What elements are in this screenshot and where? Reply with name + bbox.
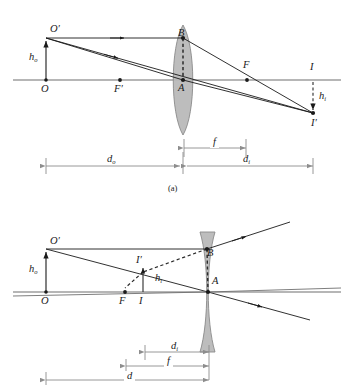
label-object-tip-b: O′: [50, 236, 60, 247]
label-dim-image-distance-b: di: [171, 341, 178, 352]
label-dim-object-distance-a: do: [107, 154, 116, 165]
label-lens-top-a: B: [178, 28, 184, 39]
ray-exit-lower-a: [183, 80, 313, 113]
focal-point-near-marker-a: [118, 78, 122, 82]
label-object-base-b: O: [41, 296, 49, 307]
ray-via-near-focus-a: [46, 38, 183, 80]
ray-center-arrow-b: [248, 303, 262, 307]
virtual-ray-dashed-b: [143, 249, 207, 272]
lens-center-marker-b: [206, 290, 210, 294]
label-lens-center-a: A: [178, 83, 184, 94]
label-dim-focal-length-b: f: [164, 356, 173, 367]
ray-diverged-upper-arrow-b: [232, 237, 246, 242]
label-focal-near-a: F′: [114, 84, 123, 95]
label-image-tip-b: I′: [136, 255, 142, 266]
label-focal-far-a: F: [243, 60, 249, 71]
label-dim-image-distance-a: di: [243, 154, 250, 165]
label-image-height-a: hi: [319, 91, 326, 102]
ray-diverged-upper-b: [207, 222, 290, 249]
focal-point-far-marker-a: [245, 78, 249, 82]
panel-b: [13, 222, 341, 385]
label-dim-focal-length-a: f: [210, 137, 219, 148]
label-focal-b: F: [119, 296, 125, 307]
label-object-base-a: O: [41, 84, 49, 95]
label-image-height-b: hi: [155, 273, 162, 284]
ray-through-center-b: [46, 249, 208, 292]
label-object-tip-a: O′: [50, 24, 60, 35]
optics-figure: O′ ho O F′ F B A I hi I′ do f di (a) O′ …: [0, 0, 349, 385]
label-lens-center-b: A: [212, 276, 218, 287]
focal-point-marker-b: [123, 290, 127, 294]
image-tip-marker-a: [311, 111, 315, 115]
panel-a: [13, 25, 341, 174]
label-lens-top-b: B: [207, 248, 213, 259]
ray-through-focus-a: [183, 38, 313, 113]
object-base-marker-a: [44, 78, 48, 82]
axis-continuation-b: [208, 288, 341, 292]
panel-caption-a: (a): [168, 183, 177, 193]
label-object-height-b: ho: [29, 264, 38, 275]
object-base-marker-b: [44, 290, 48, 294]
label-image-tip-a: I′: [311, 118, 317, 129]
label-dim-object-distance-b: d: [124, 371, 135, 382]
label-image-base-b: I: [139, 296, 143, 307]
label-object-height-a: ho: [29, 52, 38, 63]
label-image-base-a: I: [310, 62, 314, 73]
